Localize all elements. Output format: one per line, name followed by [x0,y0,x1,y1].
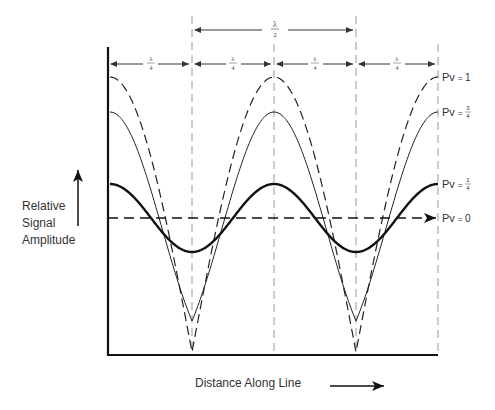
svg-text:Pv: Pv [442,106,455,118]
y-axis-label: Relative Signal Amplitude [22,170,78,247]
quarter-label-2: λ 4 [229,55,237,71]
svg-text:4: 4 [232,65,235,71]
half-wave-num: λ [273,20,277,29]
svg-text:1: 1 [465,72,471,83]
label-pv-0: Pv = 0 [442,212,471,224]
svg-text:1: 1 [466,177,470,183]
svg-text:Signal: Signal [22,216,55,230]
curve-labels: Pv = 1 Pv = 3 4 Pv = 1 4 Pv = 0 [442,71,471,224]
standing-wave-diagram: λ 2 λ 4 λ 4 λ 4 λ 4 [0,0,495,410]
svg-text:=: = [458,181,463,190]
svg-text:λ: λ [231,55,235,63]
svg-text:Amplitude: Amplitude [22,233,76,247]
label-pv-1-4: Pv = 1 4 [442,177,471,191]
axes [107,47,438,356]
svg-text:λ: λ [313,55,317,63]
svg-text:=: = [458,215,463,224]
svg-text:Pv: Pv [442,178,455,190]
svg-text:=: = [458,74,463,83]
label-pv-3-4: Pv = 3 4 [442,105,471,119]
quarter-label-3: λ 4 [311,55,319,71]
svg-text:3: 3 [466,105,470,111]
svg-text:4: 4 [466,185,470,191]
svg-text:Relative: Relative [22,199,66,213]
svg-text:4: 4 [466,113,470,119]
svg-text:4: 4 [150,65,153,71]
svg-text:λ: λ [149,55,153,63]
quarter-label-4: λ 4 [393,55,401,71]
x-axis-label: Distance Along Line [195,376,384,390]
svg-text:Pv: Pv [442,212,455,224]
label-pv-1: Pv = 1 [442,71,471,83]
half-wave-dimension: λ 2 [195,20,353,39]
half-wave-den: 2 [273,31,277,39]
svg-text:4: 4 [314,65,317,71]
svg-text:Distance Along Line: Distance Along Line [195,376,301,390]
svg-text:4: 4 [396,65,399,71]
svg-text:=: = [458,109,463,118]
svg-text:0: 0 [465,213,471,224]
svg-text:λ: λ [395,55,399,63]
svg-text:Pv: Pv [442,71,455,83]
quarter-label-1: λ 4 [147,55,155,71]
